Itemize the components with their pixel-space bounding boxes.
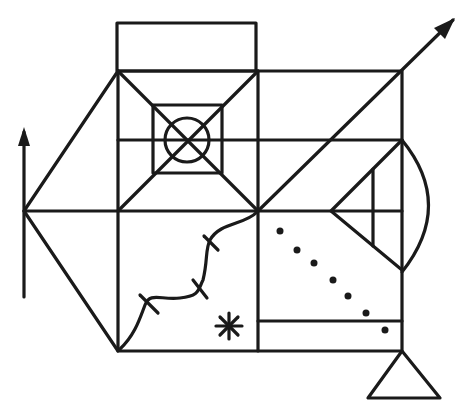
complex-figure-drawing <box>0 0 462 416</box>
bottom-triangle <box>368 351 440 398</box>
top-box <box>117 23 256 71</box>
right-inner-triangle <box>331 140 402 270</box>
left-arrowhead-icon <box>18 127 30 146</box>
right-arc <box>402 140 429 272</box>
star-icon <box>216 313 242 339</box>
wavy-line <box>120 212 257 349</box>
